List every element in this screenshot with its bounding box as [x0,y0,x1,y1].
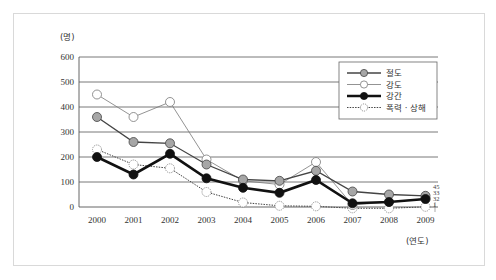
legend-marker [360,81,367,88]
y-tick-label: 600 [61,52,75,62]
data-point [93,113,102,122]
data-point [129,160,138,169]
legend-label: 강도 [386,80,402,90]
x-tick-label: 2003 [198,215,217,225]
x-axis-unit-label: (연도) [406,236,429,246]
x-tick-label: 2001 [125,215,143,225]
data-point [275,201,284,210]
data-point [202,160,211,169]
data-point [421,195,430,204]
x-tick-label: 2007 [344,215,363,225]
series-line [97,150,426,209]
legend-label: 강간 [386,91,402,101]
data-point [385,198,394,207]
data-point [202,174,211,183]
x-tick-label: 2000 [88,215,107,225]
x-tick-label: 2006 [307,215,326,225]
x-tick-label: 2008 [380,215,399,225]
y-tick-label: 300 [61,127,75,137]
data-point [239,175,248,184]
series-2 [93,149,431,208]
legend-label: 절도 [386,68,402,78]
data-point [239,198,248,207]
x-tick-label: 2009 [417,215,436,225]
legend-label: 폭력 · 상해 [386,103,426,113]
data-point [93,153,102,162]
x-tick-label: 2004 [234,215,253,225]
data-point [93,90,102,99]
series-line [97,117,426,196]
end-value-labels: 4533321 [433,183,440,212]
data-point [275,188,284,197]
y-tick-label: 400 [61,102,75,112]
data-point [202,188,211,197]
data-point [312,158,321,167]
data-point [129,113,138,122]
data-point [239,183,248,192]
y-axis-unit-label: (명) [60,32,75,42]
legend-marker [360,104,367,111]
data-point [312,202,321,211]
legend-marker [360,69,367,76]
legend: 절도강도강간폭력 · 상해 [339,62,437,119]
data-point [166,164,175,173]
legend-marker [360,92,367,99]
y-tick-label: 200 [61,152,75,162]
series-line [97,154,426,204]
x-tick-label: 2002 [161,215,179,225]
line-chart: 0100200300400500600200020012002200320042… [0,0,496,280]
data-point [275,176,284,185]
end-value-label: 1 [433,201,436,208]
data-point [166,149,175,158]
y-tick-label: 0 [70,202,75,212]
data-point [312,176,321,185]
y-tick-label: 100 [61,177,75,187]
data-point [166,98,175,107]
data-point [312,166,321,175]
data-point [129,138,138,147]
x-tick-label: 2005 [271,215,290,225]
data-point [348,187,357,196]
series-0 [93,113,431,201]
data-point [166,139,175,148]
data-point [348,199,357,208]
y-tick-label: 500 [61,77,75,87]
data-point [129,170,138,179]
